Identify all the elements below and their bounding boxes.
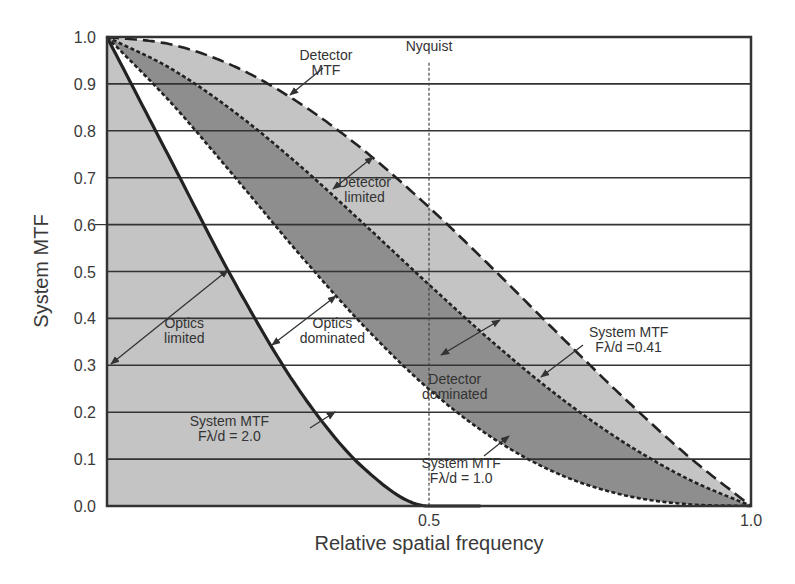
y-tick-label: 0.0 — [74, 498, 96, 515]
y-tick-label: 0.9 — [74, 76, 96, 93]
x-axis-label: Relative spatial frequency — [314, 532, 543, 554]
y-tick-label: 0.4 — [74, 310, 96, 327]
y-tick-label: 0.7 — [74, 170, 96, 187]
annotation-label: Detectordominated — [422, 371, 487, 402]
x-tick-label: 0.5 — [418, 512, 440, 529]
y-axis-label: System MTF — [30, 214, 52, 327]
annotation-label: Detectorlimited — [338, 174, 391, 205]
annotation-label: System MTFFλ/d = 2.0 — [190, 413, 269, 444]
y-tick-label: 0.3 — [74, 357, 96, 374]
annotation-label: DetectorMTF — [299, 47, 352, 78]
y-tick-label: 0.8 — [74, 123, 96, 140]
y-tick-label: 0.2 — [74, 404, 96, 421]
annotation-label: Nyquist — [406, 38, 453, 54]
mtf-chart: 0.00.10.20.30.40.50.60.70.80.91.0 0.51.0… — [0, 0, 795, 584]
x-axis-ticks: 0.51.0 — [418, 512, 762, 529]
annotation-label: Opticslimited — [164, 315, 204, 346]
y-tick-label: 0.6 — [74, 217, 96, 234]
annotation-label: System MTFFλ/d =0.41 — [589, 324, 668, 355]
y-tick-label: 0.5 — [74, 264, 96, 281]
annotation-label: System MTFFλ/d = 1.0 — [422, 455, 501, 486]
y-tick-label: 0.1 — [74, 451, 96, 468]
y-tick-label: 1.0 — [74, 29, 96, 46]
y-axis-ticks: 0.00.10.20.30.40.50.60.70.80.91.0 — [74, 29, 96, 515]
x-tick-label: 1.0 — [740, 512, 762, 529]
